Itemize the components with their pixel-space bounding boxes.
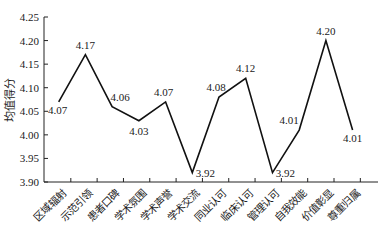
data-point-label: 4.06	[111, 91, 131, 103]
data-point-label: 4.03	[129, 125, 149, 137]
y-tick-label: 4.10	[20, 82, 40, 94]
category-labels: 区域辐射示范引领患者口碑学术氛围学术声誉学术交流同业认可临床认可管理认可自我效能…	[31, 186, 362, 223]
data-point-label: 3.92	[196, 167, 215, 179]
line-chart: 3.903.954.004.054.104.154.204.25 4.074.1…	[0, 0, 387, 233]
data-point-label: 4.01	[343, 132, 362, 144]
data-point-label: 4.17	[76, 39, 96, 51]
y-tick-label: 4.15	[20, 58, 40, 70]
y-tick-label: 4.25	[20, 11, 40, 23]
data-point-label: 4.07	[154, 86, 174, 98]
data-point-label: 4.20	[316, 25, 336, 37]
x-axis	[44, 178, 378, 182]
data-point-label: 4.07	[48, 104, 68, 116]
y-axis-title: 均值得分	[4, 78, 16, 122]
y-tick-label: 3.90	[20, 176, 40, 188]
y-tick-label: 4.05	[20, 105, 40, 117]
y-tick-label: 4.00	[20, 129, 40, 141]
y-tick-label: 3.95	[20, 152, 40, 164]
series-line	[59, 41, 353, 173]
data-point-label: 4.12	[236, 62, 255, 74]
data-point-label: 3.92	[276, 167, 295, 179]
data-point-label: 4.01	[280, 114, 299, 126]
data-labels: 4.074.174.064.034.073.924.084.123.924.01…	[48, 25, 362, 179]
y-tick-label: 4.20	[20, 35, 40, 47]
y-axis: 3.903.954.004.054.104.154.204.25	[20, 11, 48, 188]
data-point-label: 4.08	[206, 81, 226, 93]
